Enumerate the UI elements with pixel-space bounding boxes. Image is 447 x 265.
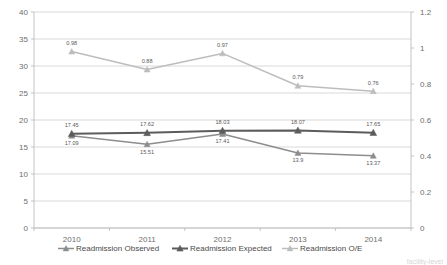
data-label: 17.62 [140, 121, 154, 127]
left-axis-tick-label: 0 [24, 224, 29, 233]
left-axis-tick-label: 20 [19, 116, 28, 125]
series-line [72, 134, 374, 156]
series-readmission-observed [69, 131, 377, 158]
category-label-2012: 2012 [214, 235, 232, 244]
left-axis-tick-label: 10 [19, 170, 28, 179]
data-label: 0.98 [66, 40, 77, 46]
data-label: 0.79 [292, 74, 303, 80]
data-label: 13.9 [292, 157, 303, 163]
left-axis-tick-label: 15 [19, 143, 28, 152]
right-axis-tick-label: 0.6 [420, 116, 432, 125]
category-label-2011: 2011 [138, 235, 156, 244]
data-label: 0.76 [368, 80, 379, 86]
footer-cut-text: facility-level [0, 258, 447, 265]
legend-item-readmission-observed[interactable]: Readmission Observed [58, 244, 159, 253]
data-label: 17.09 [65, 140, 79, 146]
right-axis-tick-label: 0 [420, 224, 425, 233]
data-label: 17.41 [216, 138, 230, 144]
data-label: 15.51 [140, 149, 154, 155]
data-label: 0.97 [217, 42, 228, 48]
left-axis-tick-label: 30 [19, 62, 28, 71]
left-axis-ticklabels: 0510152025303540 [19, 8, 28, 233]
legend-label: Readmission O/E [300, 244, 362, 253]
data-label: 17.45 [65, 122, 79, 128]
chart-legend: Readmission ObservedReadmission Expected… [58, 244, 362, 253]
category-label-2010: 2010 [63, 235, 81, 244]
data-label: 18.07 [291, 119, 305, 125]
category-axis-ticklabels: 20102011201220132014 [63, 235, 383, 244]
left-axis-tick-label: 5 [24, 197, 29, 206]
right-axis-tick-label: 0.4 [420, 152, 432, 161]
data-label: 13.37 [366, 160, 380, 166]
data-label: 18.03 [216, 119, 230, 125]
left-axis-tick-label: 25 [19, 89, 28, 98]
right-axis-tick-label: 1 [420, 44, 425, 53]
legend-label: Readmission Expected [190, 244, 272, 253]
data-label: 17.65 [366, 121, 380, 127]
category-label-2013: 2013 [289, 235, 307, 244]
point-labels-layer: 0.980.880.970.790.7617.0915.5117.4113.91… [65, 40, 381, 166]
category-label-2014: 2014 [364, 235, 382, 244]
left-axis-tick-label: 35 [19, 35, 28, 44]
legend-item-readmission-expected[interactable]: Readmission Expected [172, 244, 272, 253]
legend-label: Readmission Observed [76, 244, 159, 253]
series-readmission-o-e [69, 49, 377, 94]
right-axis-tick-label: 0.2 [420, 188, 432, 197]
legend-item-readmission-o-e[interactable]: Readmission O/E [282, 244, 362, 253]
data-label: 0.88 [142, 58, 153, 64]
right-axis-ticklabels: 00.20.40.60.811.2 [420, 8, 432, 233]
data-point-marker [69, 49, 75, 54]
right-axis-tick-label: 0.8 [420, 80, 432, 89]
right-axis-tick-label: 1.2 [420, 8, 432, 17]
left-axis-tick-label: 40 [19, 8, 28, 17]
series-line [72, 52, 374, 92]
